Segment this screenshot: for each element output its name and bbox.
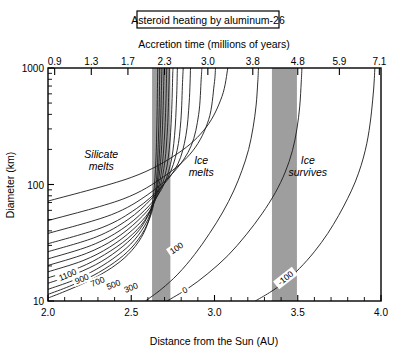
region-annotation: melts [189,166,215,178]
top-tick-label: 3.8 [246,56,260,67]
x-tick-label: 3.0 [208,307,222,318]
chart-title-box: Asteroid heating by aluminum-26 [131,11,285,28]
x-tick-label: 3.5 [291,307,305,318]
top-tick-label: 4.8 [291,56,305,67]
asteroid-heating-figure: Asteroid heating by aluminum-26 Accretio… [0,0,407,358]
region-annotation: survives [288,166,327,178]
top-tick-label: 2.3 [158,56,172,67]
top-tick-label: 1.3 [84,56,98,67]
region-annotation: melts [89,160,115,172]
plot-area [48,68,381,301]
top-tick-label: 3.0 [201,56,215,67]
y-tick-label: 1000 [22,63,45,74]
region-annotation: Silicate [84,148,118,160]
region-annotation: Ice [194,154,208,166]
bottom-axis-label: Distance from the Sun (AU) [150,335,278,347]
x-tick-label: 2.0 [41,307,55,318]
top-axis-label: Accretion time (millions of years) [138,38,290,50]
y-tick-label: 100 [27,180,44,191]
top-tick-label: 0.9 [48,56,62,67]
left-axis-label: Diameter (km) [4,152,16,219]
region-annotation: Ice [301,154,315,166]
shaded-band [272,68,297,301]
x-tick-label: 2.5 [124,307,138,318]
y-tick-label: 10 [33,296,45,307]
plot-background [48,68,381,301]
top-tick-label: 1.7 [121,56,135,67]
top-tick-label: 7.1 [372,56,386,67]
top-tick-label: 5.9 [332,56,346,67]
chart-svg: Asteroid heating by aluminum-26 Accretio… [0,0,407,358]
chart-title: Asteroid heating by aluminum-26 [131,14,285,26]
x-tick-label: 4.0 [374,307,388,318]
